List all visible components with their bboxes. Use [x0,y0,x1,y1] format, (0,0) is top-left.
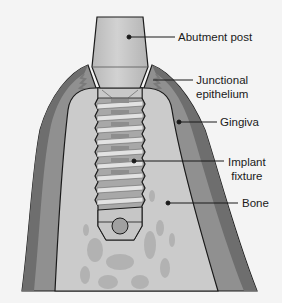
label-junctional-epithelium: Junctional epithelium [196,73,248,101]
implant-fixture [95,88,145,240]
label-junctional-epithelium-line2: epithelium [196,87,248,101]
label-gingiva-text: Gingiva [220,116,259,128]
thread-bands [97,101,143,205]
label-implant-fixture-line2: fixture [228,169,266,183]
label-bone: Bone [242,196,269,210]
label-implant-fixture-line1: Implant [228,155,266,169]
label-gingiva: Gingiva [220,115,259,129]
label-junctional-epithelium-line1: Junctional [196,73,248,87]
label-bone-text: Bone [242,197,269,209]
abutment-post [92,17,148,88]
label-implant-fixture: Implant fixture [228,155,266,183]
label-abutment-post: Abutment post [178,30,252,44]
label-abutment-post-text: Abutment post [178,31,252,43]
implant-diagram [0,0,282,303]
